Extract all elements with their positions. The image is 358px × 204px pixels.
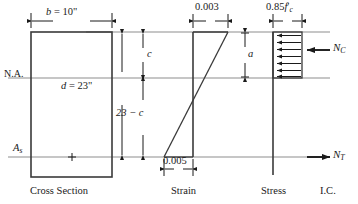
strain-top-value-label: 0.003 [195, 2, 219, 13]
figure-svg [0, 0, 358, 204]
stress-block-rect [273, 32, 302, 78]
a-dimension-label: a [248, 49, 253, 60]
stress-block [273, 32, 302, 175]
internal-couple-arrows [307, 50, 330, 157]
compression-force-label: NC [333, 42, 346, 55]
strain-top-dimension [193, 14, 228, 28]
tension-force-subscript: T [340, 153, 344, 162]
caption-internal-couple: I.C. [320, 186, 336, 197]
reference-rules [8, 32, 330, 157]
steel-area-label: As [13, 143, 22, 154]
steel-area-subscript: s [19, 146, 22, 155]
strain-profile-line [164, 32, 228, 157]
below-c-dimension-label: 23 − c [116, 108, 144, 119]
strain-diagram [164, 32, 228, 157]
c-dimension-label: c [147, 49, 152, 60]
stress-block-value-label: 0.85f′c [266, 2, 293, 13]
caption-cross-section: Cross Section [30, 186, 88, 197]
caption-strain: Strain [171, 186, 196, 197]
tension-force-label: NT [333, 149, 345, 162]
depth-value: = 23" [66, 80, 92, 91]
figure-canvas: b = 10" N.A. d = 23" As + c 23 − c a 0.0… [0, 0, 358, 204]
effective-depth-label: d = 23" [61, 81, 92, 92]
strain-bottom-value-label: 0.005 [163, 156, 187, 167]
width-value: = 10" [51, 6, 77, 17]
width-dimension-label: b = 10" [46, 7, 77, 18]
neutral-axis-label: N.A. [4, 69, 23, 79]
compression-force-subscript: C [340, 46, 345, 55]
stress-subscript-c: c [290, 5, 293, 14]
stress-coefficient: 0.85 [266, 1, 284, 12]
below-c-text: 23 − c [116, 107, 144, 118]
stress-width-dimension [273, 14, 302, 28]
stress-pressure-arrows [277, 36, 301, 77]
caption-stress: Stress [261, 186, 286, 197]
